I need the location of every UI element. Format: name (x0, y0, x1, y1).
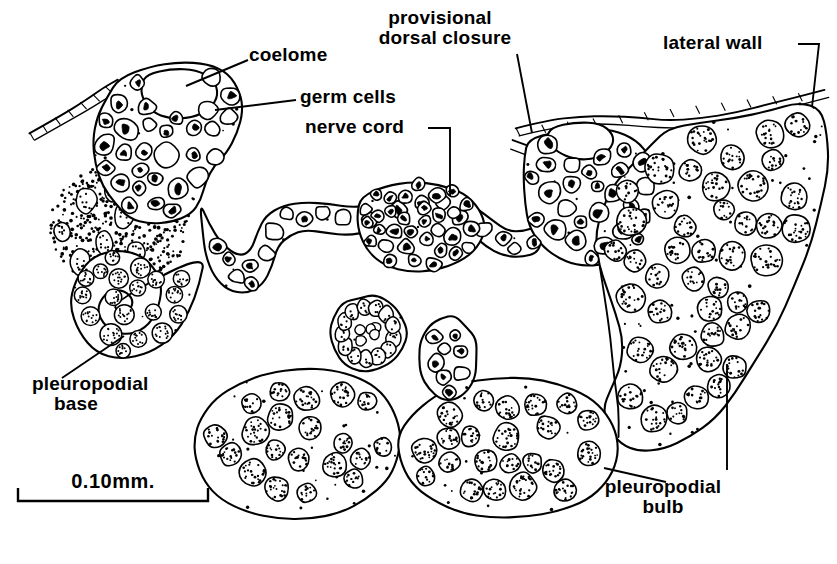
bulb-cell (439, 452, 461, 472)
islet-cell (370, 329, 380, 339)
chromatin (175, 183, 182, 195)
label-line: dorsal closure (379, 28, 512, 48)
chromatin (144, 102, 149, 110)
bulb-cell (344, 469, 363, 488)
nerve-cell (447, 207, 460, 218)
label-line: base (54, 394, 148, 414)
islet-cell (385, 317, 400, 334)
bulb-cell (652, 190, 678, 218)
chromatin (386, 258, 392, 263)
label-line: germ cells (300, 87, 396, 107)
bulb-cell (684, 386, 708, 409)
bulb-cell (781, 183, 807, 210)
chromatin (432, 193, 440, 199)
figure-root: coelomegerm cellsnerve cordprovisionaldo… (0, 0, 837, 564)
chromatin (532, 216, 540, 222)
bulb-cell (650, 356, 678, 382)
label-line: pleuropodial (32, 374, 148, 394)
bulb-cell (627, 337, 653, 362)
bulb-cell (578, 411, 599, 430)
label-coelome: coelome (249, 45, 328, 65)
chromatin (532, 239, 536, 247)
label-line: bulb (605, 497, 721, 517)
bulb-cell (109, 269, 128, 288)
bulb-cell (665, 237, 690, 263)
bulb-cell (616, 284, 645, 313)
bulb-cell (682, 267, 704, 291)
chromatin (302, 216, 308, 222)
germ-cell (207, 149, 224, 165)
bulb-cell (475, 450, 497, 472)
bulb-cell (496, 396, 520, 419)
epithelial-cell (280, 207, 293, 219)
epithelial-cell (335, 209, 351, 224)
label-nerve-cord: nerve cord (305, 117, 404, 137)
chromatin (246, 263, 252, 269)
islet-cell (345, 304, 358, 320)
epithelial-cell (266, 223, 284, 240)
bulb-cell (105, 251, 119, 265)
label-line: provisional (369, 8, 512, 28)
islet-cell (438, 343, 451, 354)
label-germ-cells: germ cells (300, 87, 396, 107)
chromatin (122, 124, 129, 134)
label-line: lateral wall (663, 33, 763, 53)
bulb-cell (728, 292, 748, 313)
bulb-cell (145, 304, 161, 320)
nerve-cell (378, 240, 393, 252)
chromatin (152, 175, 158, 183)
label-pleuropodial-base: pleuropodialbase (32, 374, 148, 414)
germ-cell (205, 121, 220, 136)
islet-cell (356, 336, 367, 346)
bulb-cell (74, 287, 91, 304)
germ-cell (564, 158, 580, 172)
chromatin (164, 130, 169, 135)
label-lateral-wall: lateral wall (663, 33, 763, 53)
label-line: pleuropodial (605, 477, 721, 497)
bulb-cell (721, 145, 744, 170)
bulb-cell (762, 150, 784, 171)
scale-bar-label: 0.10mm. (71, 470, 155, 493)
epithelial-cell (316, 207, 330, 220)
islet-cell (355, 325, 366, 335)
chromatin (438, 247, 443, 254)
bulb-cell (719, 241, 745, 270)
chromatin (411, 258, 416, 262)
bulb-cell (331, 382, 355, 407)
islet-cell (454, 367, 470, 380)
label-line: nerve cord (305, 117, 404, 137)
label-provisional-dorsal-closure: provisionaldorsal closure (369, 8, 512, 48)
bulb-cell (152, 323, 172, 343)
bulb-cell (170, 306, 187, 323)
germ-cell (558, 200, 576, 217)
bulb-cell (81, 307, 100, 326)
label-pleuropodial-bulb: pleuropodialbulb (605, 477, 721, 517)
label-line: coelome (249, 45, 328, 65)
bulb-cell (474, 390, 494, 410)
nerve-cell (462, 242, 475, 253)
